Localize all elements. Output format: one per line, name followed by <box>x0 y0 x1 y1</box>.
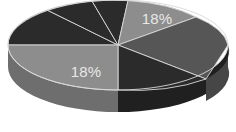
pie-top-face <box>8 0 228 90</box>
pie-chart-figure: 18% 18% <box>0 0 236 132</box>
pie-label-lower-left: 18% <box>71 63 102 80</box>
pie-label-top-right: 18% <box>142 10 173 27</box>
pie-chart-svg: 18% 18% <box>0 0 236 132</box>
